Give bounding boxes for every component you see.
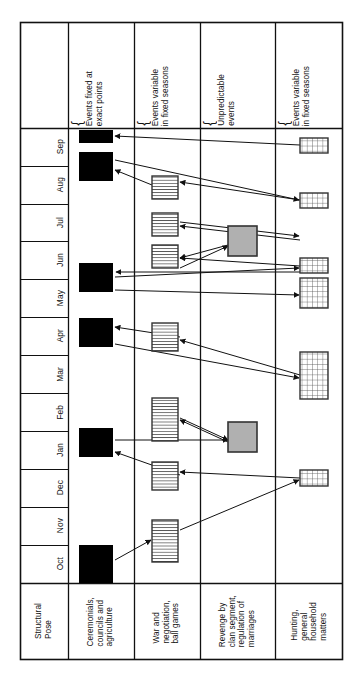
column-header-ceremonials-text: Events fixed at exact points <box>85 71 104 126</box>
arrow-a17 <box>180 420 228 442</box>
column-header-war-negotiation-text: Events variable in fixed seasons <box>151 66 170 126</box>
arrow-a9 <box>180 258 300 266</box>
arrow-a12 <box>115 290 299 295</box>
month-label-feb-text: Feb <box>56 405 66 420</box>
event-marker-c3-e3[interactable] <box>152 245 178 268</box>
column-footer-revenge: Revenge by clan segment, regulation of m… <box>203 586 272 657</box>
column-header-revenge-text: Unpredictable events <box>217 74 236 126</box>
brace-glyph: { <box>202 121 216 126</box>
event-marker-c3-e4[interactable] <box>152 323 178 351</box>
month-label-oct-text: Oct <box>56 557 66 570</box>
event-marker-c5-e3[interactable] <box>300 258 328 273</box>
column-header-hunting: {Events variable in fixed seasons <box>277 24 341 126</box>
arrow-a20 <box>180 472 300 478</box>
event-marker-c2-e6[interactable] <box>79 545 113 583</box>
column-header-ceremonials: {Events fixed at exact points <box>70 24 132 126</box>
arrow-a2 <box>115 160 299 200</box>
brace-glyph: { <box>136 121 150 126</box>
column-header-revenge: {Unpredictable events <box>202 24 273 126</box>
arrow-a21 <box>180 480 299 530</box>
column-header-hunting-text: Events variable in fixed seasons <box>292 66 311 126</box>
event-marker-c5-e6[interactable] <box>300 470 328 486</box>
event-marker-c4-e1[interactable] <box>228 226 257 256</box>
month-label-sep: Sep <box>22 128 66 166</box>
month-label-apr-text: Apr <box>56 329 66 342</box>
arrow-layer <box>115 136 300 560</box>
month-label-jun: Jun <box>22 241 66 279</box>
event-marker-c4-e2[interactable] <box>228 422 257 452</box>
month-label-may: May <box>22 279 66 317</box>
event-marker-c3-e7[interactable] <box>152 520 178 562</box>
month-label-feb: Feb <box>22 393 66 431</box>
month-label-nov: Nov <box>22 507 66 545</box>
month-label-apr: Apr <box>22 317 66 355</box>
month-label-oct: Oct <box>22 545 66 583</box>
event-marker-c2-e4[interactable] <box>79 318 113 347</box>
arrow-a22 <box>115 540 151 560</box>
event-marker-c2-e1[interactable] <box>79 130 113 143</box>
event-marker-c3-e5[interactable] <box>152 398 178 441</box>
column-header-war-negotiation: {Events variable in fixed seasons <box>136 24 198 126</box>
arrow-a15 <box>180 340 300 375</box>
event-marker-c2-e3[interactable] <box>79 263 113 292</box>
month-label-aug-text: Aug <box>56 177 66 192</box>
arrow-a3 <box>115 170 152 185</box>
event-marker-c3-e6[interactable] <box>152 462 178 490</box>
month-label-mar-text: Mar <box>56 367 66 382</box>
event-marker-c2-e2[interactable] <box>79 152 113 181</box>
month-label-nov-text: Nov <box>56 518 66 533</box>
column-footer-hunting-text: Hunting, general household matters <box>290 602 329 641</box>
month-label-may-text: May <box>56 290 66 306</box>
arrow-a7 <box>180 245 228 258</box>
month-label-sep-text: Sep <box>56 139 66 154</box>
arrow-a4 <box>180 182 300 200</box>
event-marker-c5-e2[interactable] <box>300 193 328 208</box>
column-footer-hunting: Hunting, general household matters <box>278 586 340 657</box>
month-label-jan: Jan <box>22 431 66 469</box>
event-marker-c2-e5[interactable] <box>79 428 113 457</box>
arrow-a14 <box>115 344 299 378</box>
event-marker-c3-e2[interactable] <box>152 213 178 236</box>
event-marker-c5-e1[interactable] <box>300 138 328 153</box>
month-label-aug: Aug <box>22 166 66 204</box>
event-marker-c5-e5[interactable] <box>300 352 328 399</box>
month-label-jul-text: Jul <box>56 217 66 228</box>
event-marker-c3-e1[interactable] <box>152 176 178 199</box>
month-label-dec: Dec <box>22 469 66 507</box>
arrow-a16 <box>180 418 228 440</box>
column-footer-war-negotiation: War and negotiation, ball games <box>137 586 197 657</box>
column-footer-revenge-text: Revenge by clan segment, regulation of m… <box>218 595 257 647</box>
column-footer-war-negotiation-text: War and negotiation, ball games <box>152 600 181 644</box>
month-label-dec-text: Dec <box>56 480 66 495</box>
arrow-a8 <box>180 246 228 268</box>
column-footer-ceremonials: Ceremonials, councils and agriculture <box>71 586 131 657</box>
month-label-jul: Jul <box>22 204 66 241</box>
month-label-jun-text: Jun <box>56 253 66 267</box>
brace-glyph: { <box>70 121 84 126</box>
column-footer-ceremonials-text: Ceremonials, councils and agriculture <box>86 597 115 646</box>
arrow-a1 <box>115 136 300 145</box>
month-label-jan-text: Jan <box>56 443 66 457</box>
column-footer-structural-pose: Structural Pose <box>23 586 65 657</box>
event-marker-c5-e4[interactable] <box>300 278 328 308</box>
column-footer-structural-pose-text: Structural Pose <box>34 603 53 639</box>
brace-glyph: { <box>277 121 291 126</box>
month-label-mar: Mar <box>22 355 66 393</box>
timeline-matrix-figure: {Events fixed at exact points{Events var… <box>0 0 360 690</box>
